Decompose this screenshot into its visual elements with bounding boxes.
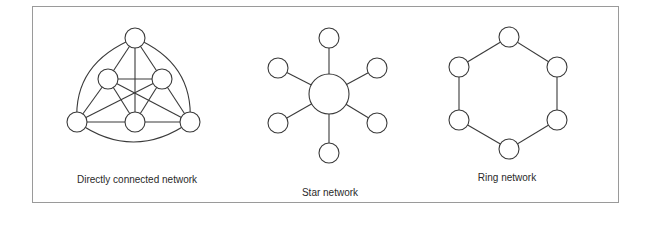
star-network-diagram — [268, 28, 387, 163]
node-top — [319, 28, 339, 48]
directly-connected-network-diagram — [67, 28, 200, 142]
node-lower-left — [449, 110, 469, 130]
ring-network-diagram — [449, 27, 567, 159]
node-lower-right — [367, 113, 387, 133]
node-top — [125, 28, 145, 48]
node-mid-left — [98, 69, 118, 89]
node-upper-right — [367, 58, 387, 78]
node-bottom — [499, 139, 519, 159]
node-bottom-left — [67, 112, 87, 132]
directly-connected-network-label: Directly connected network — [77, 174, 197, 186]
star-network-label: Star network — [302, 187, 358, 199]
node-upper-left — [268, 58, 288, 78]
node-hub — [309, 74, 349, 114]
node-lower-left — [268, 113, 288, 133]
node-mid-right — [152, 69, 172, 89]
node-bottom — [319, 143, 339, 163]
node-upper-right — [547, 57, 567, 77]
node-bottom-center — [125, 112, 145, 132]
node-top — [499, 27, 519, 47]
node-lower-right — [547, 110, 567, 130]
ring-network-label: Ring network — [478, 172, 536, 184]
node-upper-left — [449, 57, 469, 77]
node-bottom-right — [180, 112, 200, 132]
